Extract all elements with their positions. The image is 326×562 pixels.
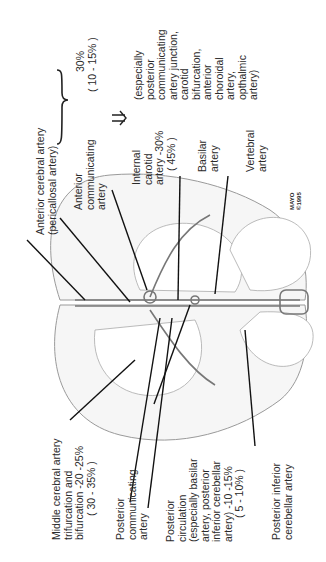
label-brace-percentage: 30%( 10 - 15% ) [52, 37, 110, 92]
label-posterior-circulation: Posteriorcirculation(especially basilara… [142, 459, 257, 542]
label-vertebral-artery: Vertebralartery [222, 130, 280, 172]
down-arrow-icon [112, 111, 126, 125]
mayo-copyright: MAYO©1995 [276, 192, 309, 210]
label-especially-sites: (especiallyposteriorcommunicatingartery … [110, 29, 271, 100]
label-posterior-inferior-cerebellar-artery: Posterior inferiorcerebellar artery [248, 463, 306, 540]
